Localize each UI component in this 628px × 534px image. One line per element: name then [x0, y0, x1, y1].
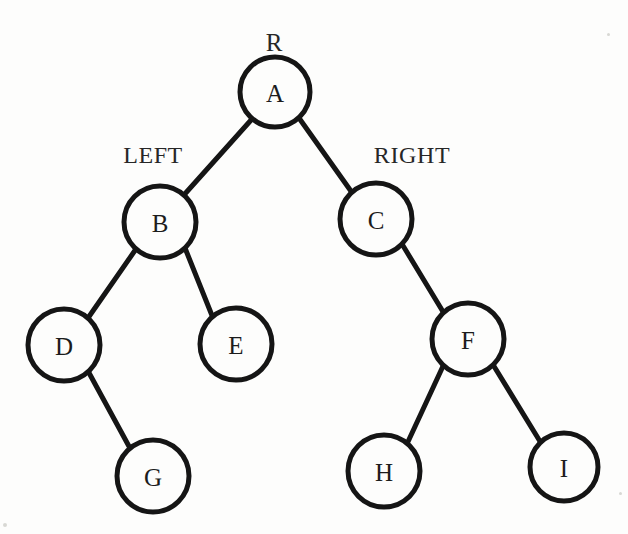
node-h[interactable]: H — [348, 435, 420, 507]
edge-f-h — [406, 364, 444, 446]
node-f[interactable]: F — [432, 303, 504, 375]
node-e[interactable]: E — [200, 308, 272, 380]
node-label-e: E — [228, 332, 243, 359]
node-label-f: F — [461, 327, 475, 354]
scan-speck-1 — [619, 492, 622, 495]
tree-canvas: ABCDEFGHI RLEFTRIGHT — [0, 0, 628, 534]
node-d[interactable]: D — [28, 309, 100, 381]
node-label-c: C — [368, 207, 385, 234]
scan-speck-0 — [3, 523, 7, 527]
node-label-g: G — [144, 464, 162, 491]
binary-tree-figure: ABCDEFGHI RLEFTRIGHT — [0, 0, 628, 534]
node-b[interactable]: B — [124, 186, 196, 258]
edge-b-e — [185, 248, 213, 318]
node-c[interactable]: C — [340, 183, 412, 255]
annotation-right-marker: RIGHT — [374, 142, 450, 168]
node-a[interactable]: A — [240, 57, 310, 127]
edge-a-b — [183, 119, 252, 196]
edge-a-c — [299, 118, 353, 194]
edge-f-i — [492, 363, 541, 443]
edge-d-g — [88, 371, 131, 450]
node-label-b: B — [152, 210, 169, 237]
node-g[interactable]: G — [117, 440, 189, 512]
node-i[interactable]: I — [530, 433, 598, 501]
edge-b-d — [88, 249, 136, 318]
node-label-h: H — [375, 459, 393, 486]
scan-speck-2 — [607, 33, 610, 36]
edge-c-f — [402, 244, 445, 315]
annotation-root-marker: R — [266, 29, 283, 56]
node-label-a: A — [266, 80, 284, 107]
annotation-left-marker: LEFT — [123, 142, 183, 168]
node-label-d: D — [55, 333, 73, 360]
node-label-i: I — [560, 455, 568, 482]
